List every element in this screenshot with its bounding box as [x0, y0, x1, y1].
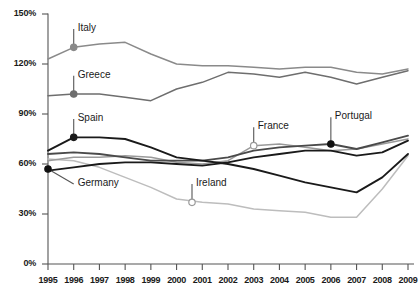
data-point-marker-spain[interactable] — [71, 134, 77, 140]
y-tick-label-150: 150% — [2, 8, 36, 18]
series-label-portugal: Portugal — [335, 110, 372, 121]
series-label-spain: Spain — [78, 112, 104, 123]
data-point-marker-ireland[interactable] — [189, 199, 195, 205]
series-line-france — [48, 139, 408, 164]
y-tick-label-90: 90% — [2, 108, 36, 118]
data-point-marker-italy[interactable] — [71, 44, 77, 50]
chart-container: 0%30%60%90%120%150% 19951996199719981999… — [0, 0, 419, 308]
series-line-germany — [48, 141, 408, 171]
callout-leader-germany — [48, 169, 74, 184]
data-point-marker-germany[interactable] — [45, 166, 51, 172]
series-label-italy: Italy — [78, 22, 96, 33]
y-tick-label-120: 120% — [2, 58, 36, 68]
series-label-ireland: Ireland — [196, 177, 227, 188]
axis-layer — [42, 14, 414, 271]
data-point-marker-greece[interactable] — [71, 91, 77, 97]
x-tick-label-2009: 2009 — [393, 275, 419, 285]
data-point-marker-france[interactable] — [251, 142, 257, 148]
y-tick-label-30: 30% — [2, 208, 36, 218]
series-label-greece: Greece — [78, 69, 111, 80]
data-point-marker-portugal[interactable] — [328, 141, 334, 147]
series-label-germany: Germany — [78, 177, 119, 188]
line-chart-canvas — [0, 0, 419, 308]
y-tick-label-0: 0% — [2, 258, 36, 268]
y-tick-label-60: 60% — [2, 158, 36, 168]
series-label-france: France — [258, 120, 289, 131]
